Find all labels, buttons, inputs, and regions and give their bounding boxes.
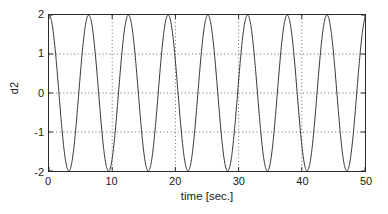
x-tick-label: 30 [233,176,245,187]
y-tick-label: 1 [22,48,44,59]
x-tick-label: 40 [296,176,308,187]
data-series-curve [49,15,365,171]
x-tick-label: 0 [45,176,51,187]
y-tick-label: 2 [22,9,44,20]
x-axis-label: time [sec.] [48,190,366,202]
y-tick-label: -1 [22,127,44,138]
y-tick-label: -2 [22,167,44,178]
y-axis-label: d2 [8,68,20,108]
x-tick-label: 10 [105,176,117,187]
x-tick-label: 20 [169,176,181,187]
y-tick-label: 0 [22,88,44,99]
x-tick-label: 50 [360,176,372,187]
plot-area [48,14,366,172]
chart-figure: d2 -2-1012 01020304050 time [sec.] [0,0,388,214]
